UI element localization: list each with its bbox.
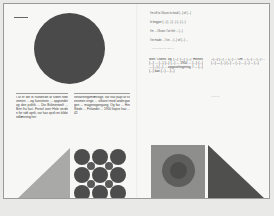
grid-dot-small (87, 162, 95, 170)
grid-dot-small (105, 162, 113, 170)
grid-dot (110, 149, 126, 165)
column-rule-right (74, 93, 130, 94)
quote-line: I'm off to Oksen to tiend (...) of (...) (150, 12, 191, 15)
right-page-column-2: --(...) (...) ... (...) ... Om ... (...)… (211, 58, 265, 94)
light-triangle-shape (16, 148, 70, 199)
quote-line: I've made ... I've ... (...) of (...) ..… (150, 39, 188, 42)
left-page: _______ I år er det fx hundrede år siden… (4, 4, 137, 198)
quote-attribution: — (...) (...), (...) (...) (152, 47, 173, 50)
quote-line: In begyen (...) (...) (...) (...) (...) (150, 21, 186, 24)
right-page-column-1: Men Ökens og (...) (...) (...) Heinek (.… (149, 58, 203, 138)
right-page: I'm off to Oksen to tiend (...) of (...)… (137, 4, 270, 198)
inner-circle (170, 162, 187, 179)
grid-dot-small (105, 180, 113, 188)
square-with-concentric-circles (151, 145, 205, 199)
quote-line: I'm ... Oksen. I've left ... (...) (150, 30, 183, 33)
large-dark-circle (34, 13, 105, 84)
outer-circle (162, 154, 195, 187)
grid-dot (110, 185, 126, 199)
left-page-column-1: I år er det fx hundrede år siden fodrive… (16, 96, 68, 142)
grid-dot (110, 167, 126, 183)
dark-triangle-shape (208, 145, 265, 199)
column-rule-left (16, 93, 68, 94)
circle-grid-shape (72, 148, 128, 199)
magazine-spread: _______ I år er det fx hundrede år siden… (3, 3, 270, 199)
left-page-column-2: forvaltningsmæssige, var hav papi af sve… (74, 96, 130, 142)
right-page-column-2-wrap: --(...) (...) ... (...) ... Om ... (...)… (211, 58, 265, 99)
grid-dot-small (87, 180, 95, 188)
column-signature: (...) (...) (211, 95, 265, 99)
section-label: _______ (14, 16, 28, 18)
